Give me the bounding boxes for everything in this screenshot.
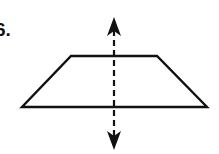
trapezoid-symmetry-figure bbox=[0, 0, 219, 154]
